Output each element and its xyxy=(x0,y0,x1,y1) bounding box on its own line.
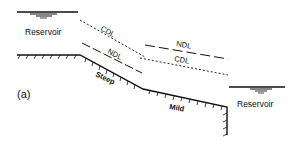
panel-label: (a) xyxy=(17,88,30,100)
steep-reach-label: Steep xyxy=(94,70,117,87)
right-reservoir-label: Reservoir xyxy=(237,99,274,109)
steep-cdl-label: CDL xyxy=(99,24,116,39)
left-reservoir-label: Reservoir xyxy=(25,27,62,37)
left-reservoir-water-surface xyxy=(17,12,78,18)
mild-cdl-label: CDL xyxy=(174,54,190,65)
channel-profile-diagram: Reservoir xyxy=(0,0,300,151)
channel-bed xyxy=(17,55,227,136)
mild-ndl-label: NDL xyxy=(176,39,192,50)
right-reservoir-water-surface xyxy=(229,87,285,93)
mild-reach-label: Mild xyxy=(169,102,186,114)
